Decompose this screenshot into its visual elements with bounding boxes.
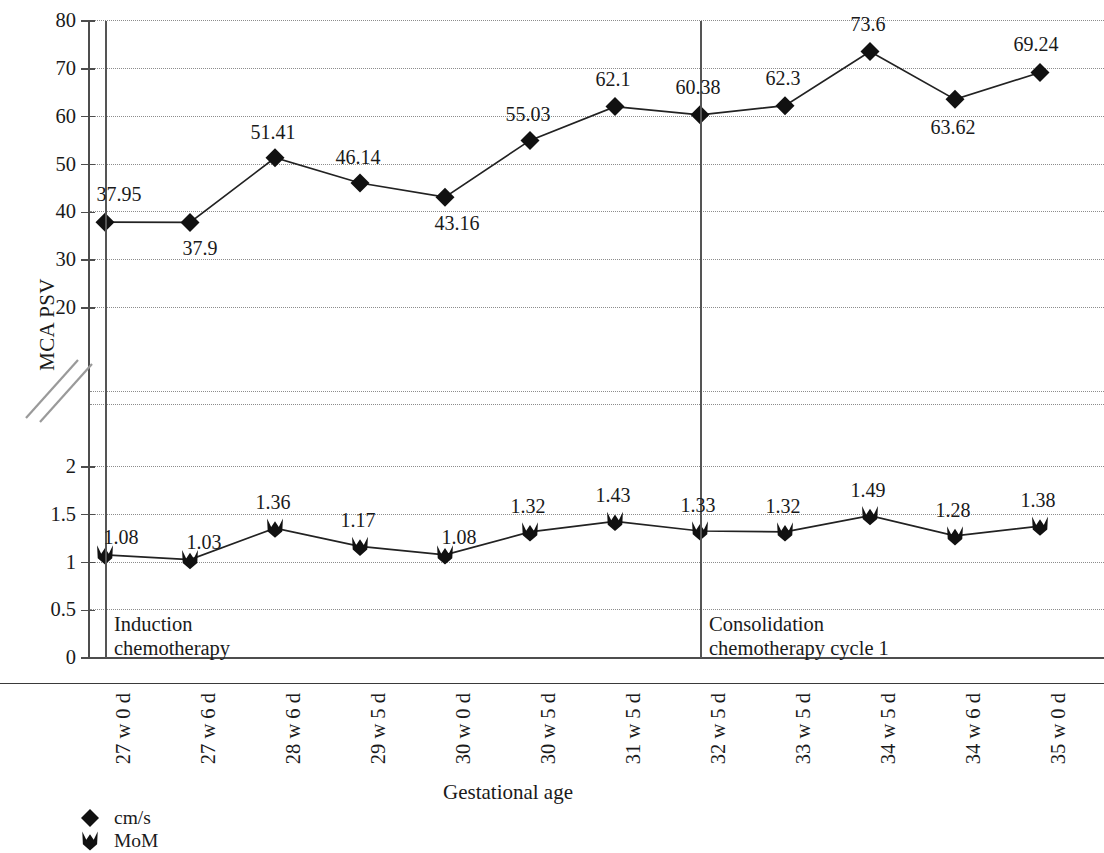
x-axis-tick-label: 32 w 5 d [708,693,729,764]
y-axis-tick-label: 50 [6,154,76,174]
x-axis-title: Gestational age [0,780,1016,805]
y-axis-tick [81,562,95,563]
data-point-label: 60.38 [676,77,721,97]
data-point-label: 1.32 [766,496,801,516]
data-point-marker [436,188,455,207]
data-point-marker [606,97,625,116]
data-point-label: 1.49 [851,480,886,500]
data-point-label: 63.62 [931,117,976,137]
data-point-label: 1.08 [104,527,139,547]
x-axis-tick-label: 35 w 0 d [1048,693,1069,764]
data-point-label: 73.6 [851,14,886,34]
data-point-label: 37.9 [183,238,218,258]
series-line-mom [105,516,1040,560]
y-axis-tick-label: 1 [6,552,76,572]
event-annotation-line-2: chemotherapy [114,636,230,660]
y-axis-tick-label: 40 [6,201,76,221]
y-axis-tick [81,259,95,260]
data-point-label: 46.14 [336,147,381,167]
data-point-label: 1.38 [1021,490,1056,510]
series-line-cm-s [105,52,1040,223]
data-point-marker [1031,63,1050,82]
y-axis-tick [81,514,95,515]
x-axis-tick-label: 28 w 6 d [283,693,304,764]
x-axis-tick-label: 34 w 5 d [878,693,899,764]
data-point-marker [267,518,283,537]
x-axis-tick-label: 27 w 6 d [198,693,219,764]
y-axis-tick [81,68,95,69]
data-point-marker [522,522,538,541]
mca-psv-gestational-age-chart: 8070605040302021.510.50 MCA PSV Inductio… [0,0,1104,853]
data-point-label: 1.28 [936,500,971,520]
gridline [90,404,1104,406]
data-point-marker [776,96,795,115]
chart-legend: cm/sMoM [78,806,158,852]
data-point-label: 62.3 [766,68,801,88]
y-axis-tick [81,164,95,165]
y-axis-tick [81,466,95,467]
data-point-label: 55.03 [506,104,551,124]
data-point-label: 43.16 [435,213,480,233]
x-axis-tick-label: 30 w 5 d [538,693,559,764]
data-point-marker [182,550,198,569]
bottom-rule [0,683,1104,684]
data-point-label: 1.03 [187,532,222,552]
data-point-label: 1.32 [511,496,546,516]
y-axis-tick-label: 0 [6,647,76,667]
legend-item-cm-s[interactable]: cm/s [78,806,158,829]
data-point-marker [352,537,368,556]
x-axis-tick-label: 34 w 6 d [963,693,984,764]
data-point-marker [351,173,370,192]
x-axis-tick-label: 31 w 5 d [623,693,644,764]
data-point-marker [777,522,793,541]
y-axis-tick [81,610,95,611]
x-axis-tick-label: 33 w 5 d [793,693,814,764]
y-axis-tick-label: 60 [6,106,76,126]
event-annotation-consolidation: Consolidationchemotherapy cycle 1 [709,612,889,660]
x-axis-tick-label: 29 w 5 d [368,693,389,764]
event-annotation-line-1: Consolidation [709,612,889,636]
data-point-label: 37.95 [97,184,142,204]
y-axis-tick [81,116,95,117]
data-point-label: 1.33 [681,495,716,515]
data-point-label: 69.24 [1014,34,1059,54]
gridline [90,466,1104,468]
gridline [90,164,1104,166]
gridline [90,609,1104,611]
x-axis-tick-label: 30 w 0 d [453,693,474,764]
y-axis-tick-label: 0.5 [6,599,76,619]
data-point-marker [1032,517,1048,536]
y-axis-tick [81,307,95,308]
gridline [90,211,1104,213]
event-divider-line-consolidation [700,21,702,658]
data-point-label: 1.36 [256,492,291,512]
data-point-label: 1.08 [442,527,477,547]
shield-marker-icon [78,831,102,851]
gridline [90,20,1104,22]
gridline [90,307,1104,309]
x-axis-tick-label: 27 w 0 d [113,693,134,764]
y-axis-tick-label: 70 [6,58,76,78]
data-point-label: 62.1 [596,69,631,89]
data-point-marker [181,213,200,232]
event-annotation-induction: Inductionchemotherapy [114,612,230,660]
y-axis-tick-label: 2 [6,456,76,476]
gridline [90,259,1104,261]
y-axis-tick [81,212,95,213]
data-point-label: 1.43 [596,485,631,505]
y-axis-tick-label: 80 [6,10,76,30]
y-axis-tick [81,20,95,21]
data-point-label: 1.17 [341,510,376,530]
legend-label: cm/s [114,808,151,828]
x-axis-line [88,657,1104,659]
y-axis-tick [81,657,95,658]
y-axis-title: MCA PSV [35,245,60,405]
data-point-marker [521,131,540,150]
y-axis-tick-label: 1.5 [6,504,76,524]
event-annotation-line-2: chemotherapy cycle 1 [709,636,889,660]
gridline [90,562,1104,564]
data-point-marker [861,42,880,61]
data-point-marker [947,526,963,545]
diamond-marker-icon [78,808,102,828]
legend-item-mom[interactable]: MoM [78,829,158,852]
